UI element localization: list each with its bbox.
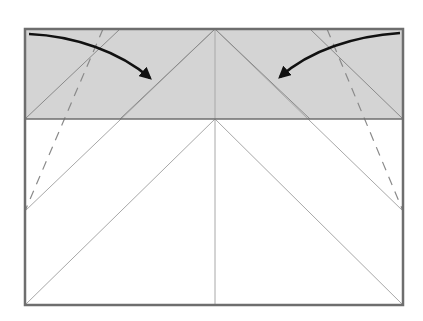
origami-fold-diagram: [0, 0, 423, 321]
